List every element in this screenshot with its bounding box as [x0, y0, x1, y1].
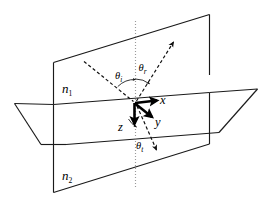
n1-subscript: 1: [69, 89, 73, 98]
vertical-plane-upper: [54, 15, 210, 105]
optics-diagram-canvas: n1 n2 θi θr θt x y z: [0, 0, 265, 208]
refraction-diagram-svg: n1 n2 θi θr θt x y z: [0, 0, 265, 208]
label-theta-i: θi: [115, 70, 122, 84]
theta-i-subscript: i: [120, 75, 122, 84]
interface-plane: [15, 89, 258, 145]
label-theta-t: θt: [136, 140, 144, 154]
label-y-axis: y: [153, 115, 161, 129]
x-axis-arrow: [135, 101, 157, 104]
label-theta-r: θr: [139, 62, 147, 76]
label-z-axis: z: [117, 120, 123, 134]
label-n2: n2: [62, 168, 73, 185]
incident-ray: [84, 62, 134, 102]
theta-t-subscript: t: [141, 145, 144, 154]
label-n1: n1: [62, 81, 73, 98]
theta-r-arc: [136, 79, 150, 84]
vertical-plane-lower: [54, 93, 210, 193]
y-axis-arrow: [135, 104, 152, 118]
theta-r-subscript: r: [144, 67, 147, 76]
label-x-axis: x: [159, 93, 166, 107]
n2-subscript: 2: [69, 176, 73, 185]
